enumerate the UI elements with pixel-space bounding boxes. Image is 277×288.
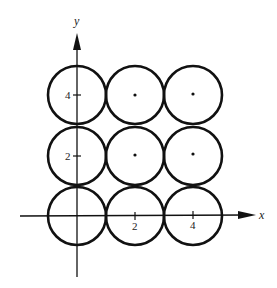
x-tick-label-2: 2	[132, 220, 138, 232]
center-dot-2-2	[133, 153, 136, 156]
y-axis-label: y	[73, 14, 80, 28]
center-dot-4-4	[191, 92, 194, 95]
x-tick-label-4: 4	[190, 219, 196, 231]
x-axis-arrow-icon	[238, 211, 256, 219]
x-axis-label: x	[258, 208, 265, 222]
y-tick-label-4: 4	[65, 89, 71, 101]
y-axis-arrow-icon	[73, 33, 81, 50]
y-tick-label-2: 2	[65, 150, 71, 162]
y-axis	[73, 33, 81, 277]
center-dot-4-2	[191, 152, 194, 155]
circle-packing-diagram: y x 4 2 2 4	[0, 0, 277, 288]
center-dot-2-4	[133, 93, 136, 96]
circle-4-2	[164, 127, 222, 185]
